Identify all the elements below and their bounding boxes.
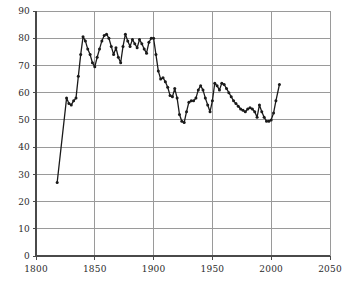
data-point-marker	[129, 45, 132, 48]
data-point-marker	[74, 97, 77, 100]
y-tick-label: 40	[18, 142, 30, 152]
line-chart: 0102030405060708090 18001850190019502000…	[0, 0, 361, 288]
data-point-marker	[211, 99, 214, 102]
data-point-marker	[117, 56, 120, 59]
data-point-marker	[65, 97, 68, 100]
data-point-marker	[152, 37, 155, 40]
data-point-marker	[216, 84, 219, 87]
y-tick-label: 70	[18, 61, 30, 71]
data-point-marker	[105, 33, 108, 36]
data-point-marker	[209, 110, 212, 113]
y-tick-label: 90	[18, 6, 30, 16]
data-point-marker	[244, 110, 247, 113]
y-tick-label: 30	[18, 170, 30, 180]
data-point-marker	[91, 61, 94, 64]
data-point-marker	[251, 108, 254, 111]
x-tick-label: 1950	[201, 264, 225, 274]
data-point-marker	[154, 53, 157, 56]
data-point-marker	[178, 113, 181, 116]
data-point-marker	[131, 38, 134, 41]
data-point-marker	[162, 76, 165, 79]
data-point-marker	[98, 48, 101, 51]
data-point-marker	[258, 103, 261, 106]
data-point-marker	[176, 97, 179, 100]
data-point-marker	[227, 91, 230, 94]
data-point-marker	[185, 110, 188, 113]
data-point-marker	[223, 83, 226, 86]
data-point-marker	[138, 38, 141, 41]
data-point-marker	[119, 61, 122, 64]
data-point-marker	[136, 46, 139, 49]
data-point-marker	[260, 110, 263, 113]
data-point-marker	[234, 102, 237, 105]
data-point-marker	[192, 99, 195, 102]
data-point-marker	[173, 87, 176, 90]
data-point-marker	[218, 88, 221, 91]
data-point-marker	[56, 181, 59, 184]
data-point-marker	[272, 112, 275, 115]
data-point-marker	[171, 95, 174, 98]
data-point-marker	[86, 48, 89, 51]
y-tick-label: 60	[18, 88, 30, 98]
data-point-marker	[145, 52, 148, 55]
x-tick-label: 2000	[259, 264, 283, 274]
data-point-marker	[232, 99, 235, 102]
data-point-marker	[263, 116, 266, 119]
y-tick-label: 50	[18, 115, 30, 125]
data-point-marker	[278, 83, 281, 86]
data-point-marker	[124, 33, 127, 36]
data-point-marker	[143, 48, 146, 51]
data-point-marker	[164, 80, 167, 83]
data-point-marker	[204, 97, 207, 100]
data-point-marker	[199, 84, 202, 87]
data-point-marker	[166, 86, 169, 89]
data-point-marker	[112, 53, 115, 56]
data-point-marker	[274, 99, 277, 102]
data-point-marker	[79, 53, 82, 56]
data-point-marker	[183, 121, 186, 124]
data-point-marker	[77, 75, 80, 78]
x-tick-label: 1850	[83, 264, 107, 274]
data-point-marker	[237, 105, 240, 108]
data-point-marker	[82, 35, 85, 38]
data-point-marker	[122, 45, 125, 48]
data-point-marker	[133, 42, 136, 45]
x-tick-label: 1900	[142, 264, 166, 274]
data-point-marker	[93, 65, 96, 68]
data-point-marker	[157, 69, 160, 72]
x-tick-label: 2050	[318, 264, 342, 274]
chart-container: 0102030405060708090 18001850190019502000…	[0, 0, 361, 288]
x-tick-label: 1800	[24, 264, 48, 274]
y-tick-label: 0	[24, 251, 30, 261]
data-point-marker	[230, 95, 233, 98]
data-point-marker	[110, 45, 113, 48]
y-tick-label: 80	[18, 33, 30, 43]
data-point-marker	[114, 46, 117, 49]
data-point-marker	[100, 39, 103, 42]
chart-background	[0, 0, 361, 288]
data-point-marker	[96, 56, 99, 59]
data-point-marker	[84, 39, 87, 42]
data-point-marker	[270, 118, 273, 121]
data-point-marker	[197, 88, 200, 91]
y-tick-label: 20	[18, 197, 30, 207]
data-point-marker	[147, 41, 150, 44]
data-point-marker	[201, 88, 204, 91]
data-point-marker	[253, 110, 256, 113]
data-point-marker	[140, 42, 143, 45]
data-point-marker	[194, 97, 197, 100]
data-point-marker	[107, 37, 110, 40]
data-point-marker	[206, 103, 209, 106]
y-tick-label: 10	[18, 224, 30, 234]
data-point-marker	[256, 116, 259, 119]
data-point-marker	[225, 87, 228, 90]
data-point-marker	[213, 82, 216, 85]
data-point-marker	[72, 99, 75, 102]
data-point-marker	[89, 53, 92, 56]
data-point-marker	[70, 103, 73, 106]
data-point-marker	[126, 39, 129, 42]
